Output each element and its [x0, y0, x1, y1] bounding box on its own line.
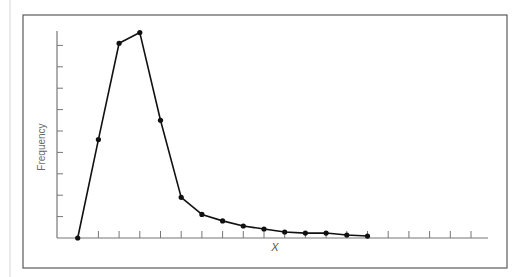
data-point-marker — [220, 218, 225, 223]
frequency-line — [78, 33, 368, 238]
data-point-marker — [199, 212, 204, 217]
data-point-marker — [282, 229, 287, 234]
axes — [57, 31, 488, 238]
data-point-marker — [179, 195, 184, 200]
y-axis-label: Frequency — [36, 123, 47, 170]
data-point-marker — [96, 137, 101, 142]
data-point-marker — [241, 223, 246, 228]
data-point-marker — [344, 232, 349, 237]
data-point-marker — [158, 118, 163, 123]
data-point-marker — [303, 230, 308, 235]
data-point-marker — [137, 30, 142, 35]
x-axis-label: X — [270, 241, 279, 253]
data-point-marker — [324, 230, 329, 235]
frequency-chart: Frequency X — [0, 0, 528, 277]
data-point-marker — [365, 233, 370, 238]
data-point-marker — [261, 226, 266, 231]
data-point-marker — [117, 41, 122, 46]
data-series — [75, 30, 370, 241]
data-point-marker — [75, 235, 80, 240]
